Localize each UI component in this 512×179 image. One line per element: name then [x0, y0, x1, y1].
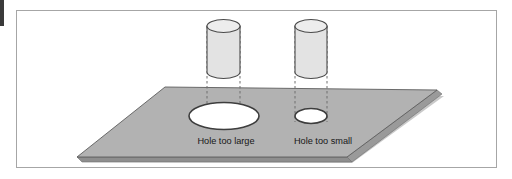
right-cylinder-body — [295, 26, 327, 79]
left-cylinder — [207, 20, 240, 79]
left-cylinder-top — [207, 20, 240, 33]
label-hole-too-large: Hole too large — [197, 136, 254, 146]
small-hole — [295, 109, 327, 124]
plate-top-surface — [77, 87, 437, 157]
label-hole-too-small: Hole too small — [294, 136, 352, 146]
diagram-canvas: Hole too large Hole too small — [0, 0, 512, 179]
left-cylinder-body — [207, 26, 240, 79]
figure-root: Hole too large Hole too small — [0, 0, 512, 179]
large-hole — [189, 103, 259, 130]
right-cylinder — [295, 20, 327, 79]
plate-edge-thickness — [77, 157, 352, 162]
right-cylinder-top — [295, 20, 327, 33]
